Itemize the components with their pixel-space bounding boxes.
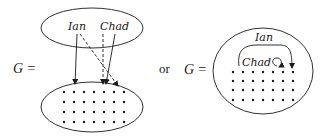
edge-chad-solid xyxy=(106,34,115,84)
left-diagram: G = Ian Chad xyxy=(13,8,143,132)
right-dot-grid xyxy=(232,71,294,101)
bottom-set-ellipse xyxy=(41,82,143,132)
diagram-canvas: G = Ian Chad or G = Ian Chad xyxy=(0,0,323,139)
left-equation-label: G = xyxy=(13,61,36,76)
right-label-ian: Ian xyxy=(254,31,273,44)
or-connector: or xyxy=(159,61,171,76)
right-diagram: G = Ian Chad xyxy=(184,28,313,114)
bottom-dot-grid xyxy=(63,91,125,123)
label-ian: Ian xyxy=(67,20,86,33)
chad-self-loop-arrow xyxy=(273,58,282,67)
edge-ian-solid xyxy=(75,34,77,84)
label-chad: Chad xyxy=(100,20,129,33)
edge-ian-dashed xyxy=(80,34,118,86)
right-equation-label: G = xyxy=(184,62,207,77)
right-label-chad: Chad xyxy=(242,56,271,69)
